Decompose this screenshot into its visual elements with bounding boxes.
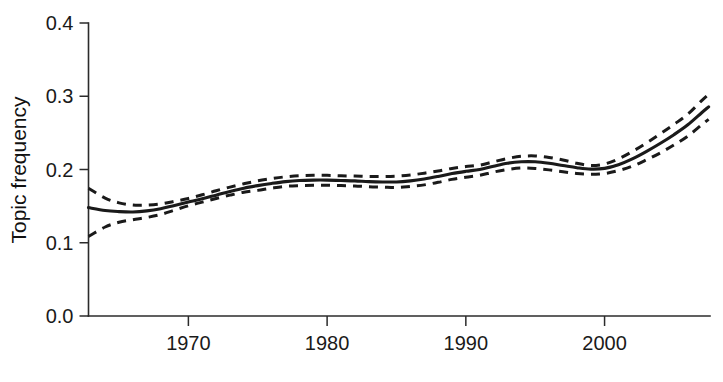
chart-canvas: 0.00.10.20.30.4 1970198019902000 Topic f… [0,0,723,382]
chart-figure: 0.00.10.20.30.4 1970198019902000 Topic f… [0,0,723,382]
x-tick-label-1990: 1990 [444,332,489,354]
y-tick-label-0.3: 0.3 [46,85,74,107]
y-axis-ticks [80,23,89,316]
x-axis-ticks [188,316,604,326]
y-tick-label-0.0: 0.0 [46,305,74,327]
x-axis-group: 1970198019902000 [89,316,711,354]
x-tick-label-1970: 1970 [166,332,211,354]
series-topic-frequency-line [89,107,709,212]
y-axis-title: Topic frequency [7,96,30,244]
y-tick-label-0.2: 0.2 [46,159,74,181]
series-confidence-band-upper [89,94,709,205]
y-axis-group: 0.00.10.20.30.4 [46,12,89,327]
x-tick-label-1980: 1980 [305,332,350,354]
x-axis-tick-labels: 1970198019902000 [166,332,627,354]
y-tick-label-0.4: 0.4 [46,12,74,34]
series-confidence-band-lower [89,119,709,236]
x-tick-label-2000: 2000 [582,332,627,354]
y-tick-label-0.1: 0.1 [46,232,74,254]
y-axis-tick-labels: 0.00.10.20.30.4 [46,12,74,327]
data-series-group [89,94,709,236]
